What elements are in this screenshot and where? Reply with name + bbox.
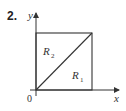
problem-number: 2.	[7, 9, 17, 23]
x-axis-label: x	[113, 92, 119, 104]
origin-label: 0	[27, 93, 32, 104]
y-axis-label: y	[27, 9, 33, 21]
region-label-r1: R 1	[71, 69, 84, 84]
svg-text:R: R	[71, 69, 79, 81]
svg-text:1: 1	[80, 76, 84, 84]
svg-text:R: R	[42, 45, 50, 57]
diagonal-line	[36, 33, 92, 90]
diagram: 2. y x 0 R 2 R 1	[0, 0, 126, 111]
svg-text:2: 2	[51, 52, 55, 60]
region-label-r2: R 2	[42, 45, 55, 60]
